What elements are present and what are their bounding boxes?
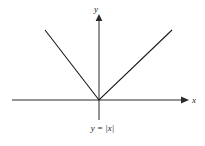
x-axis-arrowhead-icon — [181, 97, 189, 104]
y-axis-arrowhead-icon — [96, 14, 103, 21]
equation-caption: y = |x| — [0, 124, 205, 133]
y-axis-label: y — [94, 5, 98, 14]
x-axis-label: x — [192, 96, 196, 105]
absolute-value-curve — [45, 30, 172, 100]
absolute-value-graph-figure: y x y = |x| — [0, 0, 205, 146]
